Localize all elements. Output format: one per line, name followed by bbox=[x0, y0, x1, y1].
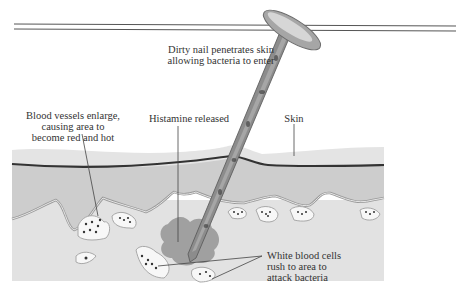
skin-label: Skin bbox=[282, 113, 306, 124]
vessels-label: Blood vessels enlarge, causing area to b… bbox=[18, 110, 128, 143]
top-rule-2 bbox=[14, 29, 456, 31]
top-rule-1 bbox=[14, 24, 456, 26]
histamine-label: Histamine released bbox=[146, 113, 232, 124]
wbc-label: White blood cells rush to area to attack… bbox=[267, 250, 377, 283]
nail-label: Dirty nail penetrates skin allowing bact… bbox=[146, 44, 296, 66]
